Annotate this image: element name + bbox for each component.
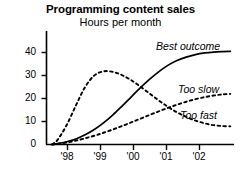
series-label-too-fast: Too fast xyxy=(180,110,217,121)
y-tick-label-30: 30 xyxy=(10,70,36,80)
series-label-best-outcome: Best outcome xyxy=(156,41,220,52)
x-axis-ticks xyxy=(68,145,200,151)
x-tick-label-98: '98 xyxy=(50,152,84,162)
y-tick-label-0: 0 xyxy=(10,139,36,149)
y-tick-label-20: 20 xyxy=(10,93,36,103)
y-tick-label-40: 40 xyxy=(10,47,36,57)
x-tick-label-02: '02 xyxy=(182,152,216,162)
x-tick-label-01: '01 xyxy=(149,152,183,162)
chart-figure: Programming content sales Hours per mont… xyxy=(0,0,241,173)
x-tick-label-00: '00 xyxy=(116,152,150,162)
y-tick-label-10: 10 xyxy=(10,116,36,126)
series-label-too-slow: Too slow xyxy=(178,84,219,95)
series-paths xyxy=(52,51,230,144)
x-tick-label-99: '99 xyxy=(83,152,117,162)
